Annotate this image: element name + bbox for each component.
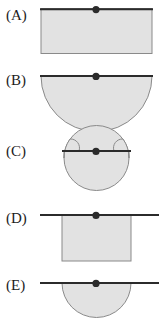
option-a-diagram (40, 6, 153, 54)
option-b-semicircle-shape (41, 76, 152, 132)
option-label-d: (D) (6, 211, 27, 226)
option-a-pivot-dot (92, 6, 99, 13)
option-e-pivot-dot (92, 280, 99, 287)
option-d-diagram (40, 212, 159, 261)
option-d-pivot-dot (92, 212, 99, 219)
option-label-c: (C) (6, 144, 26, 159)
option-c-diagram (62, 126, 131, 191)
option-e-diagram (40, 280, 159, 318)
option-a-rectangle-shape (41, 9, 152, 54)
multiple-choice-figure: (A) (B) (C) (D) (E) (0, 0, 167, 331)
option-label-e: (E) (6, 278, 25, 293)
option-d-rectangle-shape (62, 215, 131, 261)
option-e-semicircle-shape (62, 283, 131, 318)
option-b-diagram (40, 73, 153, 132)
option-c-pivot-dot (92, 148, 99, 155)
option-c-disk-shape (64, 126, 129, 191)
option-label-b: (B) (6, 73, 26, 88)
option-b-pivot-dot (92, 73, 99, 80)
option-label-a: (A) (6, 8, 27, 23)
